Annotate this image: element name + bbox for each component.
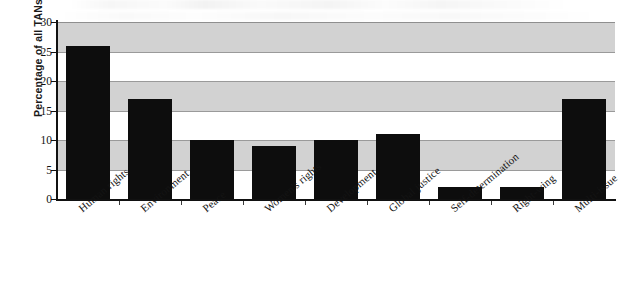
y-axis-tick-label: 30 bbox=[26, 16, 52, 28]
y-axis-tick-mark bbox=[51, 199, 57, 200]
x-axis-tick-mark bbox=[305, 201, 306, 205]
y-axis-tick-mark bbox=[51, 22, 57, 23]
x-axis-tick-mark bbox=[367, 201, 368, 205]
x-axis-tick-mark bbox=[243, 201, 244, 205]
y-axis-tick-mark bbox=[51, 140, 57, 141]
y-axis-tick-mark bbox=[51, 170, 57, 171]
x-axis-tick-mark bbox=[181, 201, 182, 205]
scan-artifact-top bbox=[70, 0, 570, 9]
y-axis-tick-mark bbox=[51, 111, 57, 112]
bar bbox=[66, 46, 111, 199]
y-axis-tick-label: 10 bbox=[26, 134, 52, 146]
y-axis-tick-labels: 051015202530 bbox=[26, 0, 52, 287]
y-axis-tick-label: 0 bbox=[26, 193, 52, 205]
bar bbox=[190, 140, 235, 199]
y-axis-tick-mark bbox=[51, 81, 57, 82]
gridline bbox=[57, 52, 615, 53]
y-axis-tick-label: 25 bbox=[26, 46, 52, 58]
y-axis-tick-label: 15 bbox=[26, 105, 52, 117]
plot-area bbox=[57, 22, 615, 199]
x-axis-tick-mark bbox=[553, 201, 554, 205]
scan-artifact-top-secondary bbox=[60, 12, 600, 20]
x-axis-tick-mark bbox=[491, 201, 492, 205]
x-axis-tick-mark bbox=[429, 201, 430, 205]
y-axis-tick-label: 5 bbox=[26, 164, 52, 176]
grid-band bbox=[57, 22, 615, 52]
gridline bbox=[57, 81, 615, 82]
y-axis-tick-mark bbox=[51, 52, 57, 53]
x-axis-tick-mark bbox=[119, 201, 120, 205]
gridline bbox=[57, 22, 615, 23]
y-axis-tick-label: 20 bbox=[26, 75, 52, 87]
bar-chart-figure: Percentage of all TANs 051015202530 Huma… bbox=[0, 0, 636, 287]
